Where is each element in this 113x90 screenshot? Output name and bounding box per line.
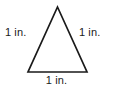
triangle-outline — [28, 7, 87, 72]
left-side-length-label: 1 in. — [5, 27, 26, 38]
bottom-side-length-label: 1 in. — [0, 75, 113, 86]
triangle-figure: 1 in. 1 in. 1 in. — [0, 0, 113, 90]
right-side-length-label: 1 in. — [79, 27, 100, 38]
